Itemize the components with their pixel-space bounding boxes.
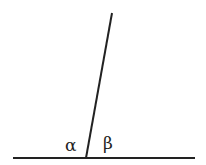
angle-label-alpha: α (65, 137, 76, 154)
angle-label-beta: β (103, 135, 113, 152)
